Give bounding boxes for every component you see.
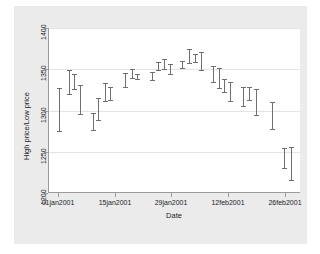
range-bar [230,82,231,101]
range-bar [80,85,81,114]
range-bar-high-cap [187,49,192,50]
range-bar-high-cap [123,73,128,74]
range-bar-low-cap [72,89,77,90]
y-axis-tick-label: 1350 [40,66,47,82]
range-bar-high-cap [282,148,287,149]
range-bar-low-cap [282,168,287,169]
plot-area [48,28,300,193]
range-bar-high-cap [247,87,252,88]
range-bar-low-cap [123,87,128,88]
range-bar-high-cap [91,113,96,114]
range-bar [189,49,190,62]
gridline [49,152,300,153]
range-bar-high-cap [289,147,294,148]
range-bar-high-cap [270,102,275,103]
range-bar-high-cap [193,54,198,55]
range-bar-low-cap [217,88,222,89]
range-bar [219,68,220,89]
range-bar [291,147,292,180]
range-bar [110,87,111,99]
range-bar-high-cap [130,69,135,70]
y-axis-tick-label: 1300 [40,107,47,123]
gridline [49,111,300,112]
gridline [49,28,300,29]
range-bar-low-cap [67,94,72,95]
range-bar [158,62,159,70]
range-bar-low-cap [254,115,259,116]
range-bar [243,87,244,107]
range-bar-low-cap [108,100,113,101]
range-bar-low-cap [57,131,62,132]
range-bar [93,113,94,130]
range-bar-low-cap [103,101,108,102]
range-bar [284,148,285,168]
range-bar [132,69,133,77]
range-bar-high-cap [72,74,77,75]
range-bar [249,87,250,99]
range-bar-high-cap [67,70,72,71]
x-axis-tick-label: 26feb2001 [268,199,301,206]
range-bar-high-cap [222,79,227,80]
plot-series-layer [49,28,300,192]
y-axis-tick-label: 1400 [40,24,47,40]
range-bar [98,98,99,120]
range-bar-high-cap [156,62,161,63]
range-bar [256,89,257,115]
chart-figure: High price/Low price 1200125013001350140… [0,0,320,254]
range-bar [74,74,75,89]
range-bar-high-cap [78,85,83,86]
range-bar [201,52,202,70]
range-bar-low-cap [180,68,185,69]
range-bar-high-cap [228,82,233,83]
range-bar-high-cap [108,87,113,88]
range-bar-high-cap [241,87,246,88]
x-axis-tick-label: 01jan2001 [42,199,75,206]
range-bar [69,70,70,94]
y-axis-title: High price/Low price [22,92,31,160]
range-bar-low-cap [228,101,233,102]
range-bar [170,64,171,74]
range-bar-low-cap [78,114,83,115]
range-bar-low-cap [270,129,275,130]
range-bar-low-cap [199,70,204,71]
x-axis-tick-label: 12feb2001 [211,199,244,206]
range-bar-low-cap [247,100,252,101]
range-bar-high-cap [180,61,185,62]
range-bar-high-cap [211,66,216,67]
x-axis-tick [58,193,59,197]
range-bar [105,83,106,101]
x-axis-tick-label: 29jan2001 [155,199,188,206]
range-bar-low-cap [241,106,246,107]
y-axis-tick-label: 1250 [40,148,47,164]
x-axis-tick [115,193,116,197]
range-bar [213,66,214,82]
range-bar-high-cap [254,89,259,90]
range-bar-high-cap [168,64,173,65]
range-bar-low-cap [162,69,167,70]
range-bar-high-cap [150,72,155,73]
x-axis-title: Date [166,211,182,220]
range-bar [182,61,183,68]
x-axis-tick [171,193,172,197]
range-bar [195,54,196,62]
range-bar-high-cap [217,68,222,69]
range-bar-low-cap [193,62,198,63]
range-bar-low-cap [96,120,101,121]
x-axis-tick-label: 15jan2001 [99,199,132,206]
range-bar-low-cap [289,180,294,181]
range-bar [272,102,273,128]
x-axis-tick [228,193,229,197]
range-bar-high-cap [135,74,140,75]
range-bar-low-cap [211,82,216,83]
range-bar-low-cap [222,92,227,93]
range-bar [164,59,165,70]
range-bar-low-cap [150,80,155,81]
range-bar [59,88,60,131]
range-bar-high-cap [96,98,101,99]
range-bar-low-cap [156,70,161,71]
range-bar-low-cap [135,79,140,80]
range-bar-high-cap [103,83,108,84]
gridline [49,69,300,70]
range-bar-low-cap [168,74,173,75]
range-bar-high-cap [57,88,62,89]
